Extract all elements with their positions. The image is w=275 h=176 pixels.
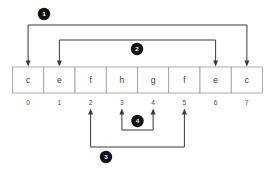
badge-4: 4: [131, 115, 143, 127]
index-label-4: 4: [151, 99, 155, 106]
badge-2: 2: [131, 43, 143, 55]
index-label-0: 0: [26, 99, 30, 106]
index-label-2: 2: [89, 99, 93, 106]
cell-value-4: g: [151, 75, 156, 85]
connector-4-arrowhead-right: [151, 109, 156, 115]
connector-1-arrowhead-right: [244, 61, 249, 67]
cell-value-3: h: [120, 75, 125, 85]
connector-4-arrowhead-left: [119, 109, 124, 115]
connector-1-arrowhead-left: [26, 61, 31, 67]
badge-4-label: 4: [136, 117, 140, 124]
array-cells: [13, 67, 263, 93]
index-label-6: 6: [214, 99, 218, 106]
index-label-5: 5: [183, 99, 187, 106]
diagram-canvas: c e f h g f e c 0 1 2 3 4 5 6 7: [0, 0, 275, 176]
index-label-1: 1: [58, 99, 62, 106]
index-labels: 0 1 2 3 4 5 6 7: [26, 99, 249, 106]
badge-3-label: 3: [104, 153, 108, 160]
index-label-3: 3: [120, 99, 124, 106]
cell-value-6: e: [213, 75, 218, 85]
palindrome-diagram: c e f h g f e c 0 1 2 3 4 5 6 7: [0, 0, 275, 176]
connector-2-arrowhead-right: [213, 61, 218, 67]
cell-value-7: c: [245, 75, 250, 85]
connector-3: [88, 109, 187, 148]
badge-1-label: 1: [42, 10, 46, 17]
connector-3-arrowhead-left: [88, 109, 93, 115]
index-label-7: 7: [245, 99, 249, 106]
cell-value-0: c: [26, 75, 31, 85]
badge-3: 3: [100, 151, 112, 163]
connector-3-arrowhead-right: [182, 109, 187, 115]
badge-1: 1: [38, 8, 50, 20]
connector-2-arrowhead-left: [57, 61, 62, 67]
badge-2-label: 2: [135, 45, 139, 52]
cell-value-1: e: [57, 75, 62, 85]
